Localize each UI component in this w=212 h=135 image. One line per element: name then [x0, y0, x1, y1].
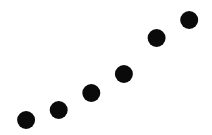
data-point-1 — [17, 111, 35, 129]
data-point-5 — [148, 29, 166, 47]
scatter-chart — [0, 0, 212, 135]
data-point-2 — [50, 101, 68, 119]
data-point-6 — [180, 11, 198, 29]
data-point-4 — [115, 65, 133, 83]
data-point-3 — [82, 84, 100, 102]
